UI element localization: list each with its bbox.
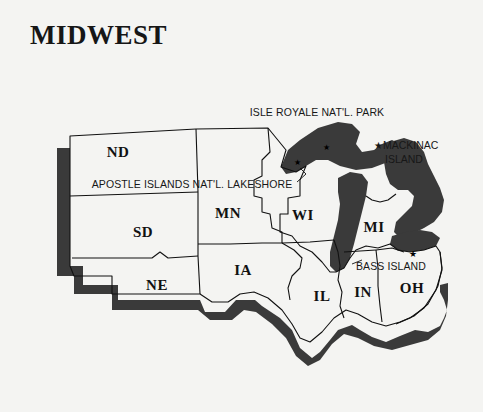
star-icon-bass-island: ★ <box>409 249 417 259</box>
state-label-oh: OH <box>400 280 424 297</box>
legend-mackinac-line2: ISLAND <box>374 152 438 166</box>
state-label-il: IL <box>314 288 331 305</box>
legend-mackinac-island: ★MACKINAC ISLAND <box>374 138 438 166</box>
state-label-ia: IA <box>234 262 252 279</box>
page-title: MIDWEST <box>30 20 167 51</box>
star-icon-isle-royale: ★ <box>323 143 330 152</box>
legend-mackinac-line1: MACKINAC <box>383 139 438 151</box>
annotation-bass-island: BASS ISLAND <box>356 260 426 272</box>
midwest-map-figure: MIDWEST ND SD NE MN IA WI IL IN MI OH IS… <box>0 0 483 412</box>
midwest-map-graphic <box>0 0 483 412</box>
star-icon-apostle-islands: ★ <box>294 158 301 167</box>
state-label-mn: MN <box>215 205 241 222</box>
state-label-in: IN <box>354 284 372 301</box>
annotation-apostle-islands: APOSTLE ISLANDS NAT'L. LAKESHORE <box>92 178 293 190</box>
state-label-ne: NE <box>146 277 168 294</box>
state-label-nd: ND <box>107 144 130 161</box>
state-label-sd: SD <box>133 224 153 241</box>
star-icon: ★ <box>374 140 383 151</box>
annotation-isle-royale: ISLE ROYALE NAT'L. PARK <box>250 106 384 118</box>
state-label-wi: WI <box>292 207 314 224</box>
state-label-mi: MI <box>364 219 385 236</box>
